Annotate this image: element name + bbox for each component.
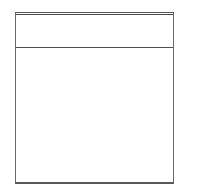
panel-body-content (16, 49, 173, 57)
empty-panel (15, 12, 174, 184)
panel-header (16, 15, 173, 48)
top-double-rule-outer (15, 12, 174, 13)
panel-body (16, 49, 173, 182)
panel-header-title (16, 15, 173, 23)
